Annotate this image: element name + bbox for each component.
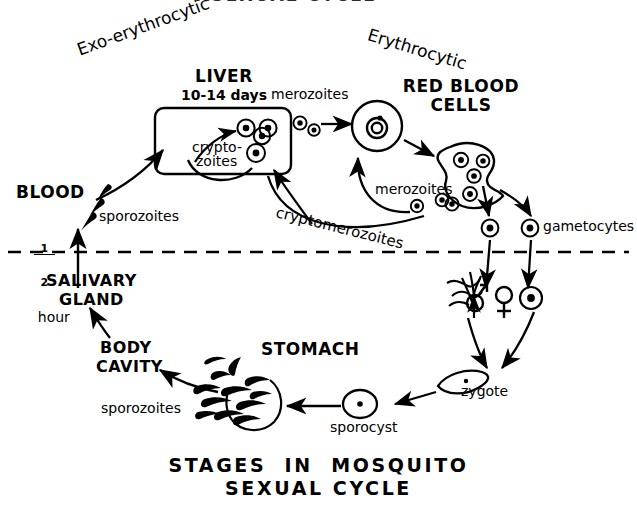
red-blood-cells-heading-line2: CELLS	[396, 97, 526, 115]
malaria-life-cycle-diagram: ASEXUAL CYCLE Exo-erythrocytic Erythrocy…	[0, 0, 637, 506]
sporocyst-oocyst	[343, 390, 377, 418]
cryptozoite-cell-lower	[247, 144, 265, 162]
schizont-to-female-gametocyte-arrow	[500, 190, 531, 216]
sporozoites-label-blood: sporozoites	[99, 209, 179, 224]
gametocyte-cell-female	[522, 220, 539, 237]
cryptozoites-label-line2: zoites	[196, 154, 237, 169]
diagram-title-top: ASEXUAL CYCLE	[196, 0, 377, 5]
merozoites-label-top: merozoites	[271, 87, 348, 102]
salivary-gland-heading-line2: GLAND	[59, 292, 124, 309]
salivary-gland-heading-line1: SALIVARY	[46, 273, 137, 290]
rbc-to-schizont-arrow	[404, 140, 434, 156]
macrogamete-symbol-female	[496, 287, 512, 318]
blood-duration-unit: hour	[38, 309, 70, 325]
sporozoites-label-oocyst: sporozoites	[101, 401, 181, 416]
diagram-vector-layer	[0, 0, 637, 506]
microgamete-symbol-male	[467, 285, 487, 311]
body-cavity-heading-line1: BODY	[100, 340, 152, 357]
red-blood-cells-heading-line1: RED BLOOD	[396, 78, 526, 96]
gametocytes-label: gametocytes	[543, 219, 634, 234]
body-cavity-heading-line2: CAVITY	[96, 359, 163, 376]
released-sporozoite-shapes	[193, 357, 272, 426]
liver-merozoite-cells	[293, 116, 319, 135]
blood-duration-numerator: 1	[34, 243, 55, 255]
female-gametocyte-to-macrogamete-arrow	[528, 240, 531, 288]
male-gamete-to-zygote-arrow	[468, 318, 487, 368]
schizont-to-male-gametocyte-arrow	[483, 186, 489, 216]
stomach-heading: STOMACH	[261, 341, 360, 359]
blood-heading: BLOOD	[16, 184, 85, 202]
diagram-title-bottom-line1: STAGES IN MOSQUITO	[0, 456, 637, 476]
liver-heading: LIVER	[174, 68, 274, 86]
diagram-title-bottom-line2: SEXUAL CYCLE	[0, 479, 637, 499]
zygote-to-sporocyst-arrow	[395, 392, 436, 404]
macrogamete-cell	[520, 287, 542, 309]
exflagellating-microgametocyte	[447, 272, 482, 306]
body-cavity-to-salivary-gland-arrow	[90, 308, 110, 338]
cryptozoite-cells	[237, 119, 276, 144]
female-gamete-to-zygote-arrow	[502, 312, 534, 368]
zygote-label: zygote	[461, 384, 508, 399]
sporocyst-label: sporocyst	[330, 420, 398, 435]
gametocyte-cell-male	[482, 220, 499, 237]
liver-duration: 10-14 days	[168, 88, 280, 103]
male-gametocyte-to-microgamete-arrow	[486, 240, 490, 288]
merozoites-label-inner: merozoites	[375, 182, 452, 197]
infected-rbc-ring-stage	[352, 101, 402, 151]
